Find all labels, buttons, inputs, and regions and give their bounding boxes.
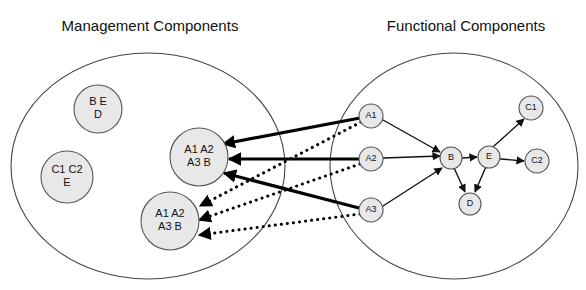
node-label-line: A3 B — [158, 220, 182, 232]
functional-components-title: Functional Components — [387, 17, 545, 34]
node-fn-c1[interactable]: C1 — [519, 96, 543, 120]
edge-e-c2 — [501, 159, 524, 161]
edge-a2-b — [384, 156, 440, 158]
diagram-root: Management Components Functional Compone… — [0, 0, 586, 290]
node-label-line: D — [94, 108, 102, 120]
node-fn-e[interactable]: E — [478, 146, 500, 168]
node-label: A1 — [365, 110, 376, 120]
node-label: B — [448, 152, 454, 162]
edge-a1-b — [383, 120, 440, 152]
node-label-line: E — [63, 176, 70, 188]
node-label-line: A1 A2 — [184, 143, 213, 155]
edge-a3-b — [383, 168, 442, 206]
node-label: C2 — [531, 155, 543, 165]
node-label-line: A3 B — [187, 156, 211, 168]
node-mgmt-a-lower[interactable]: A1 A2A3 B — [141, 192, 199, 250]
edge-e-c1 — [494, 119, 524, 146]
edge-a3-to-mgmt-lower — [199, 214, 360, 235]
node-fn-a1[interactable]: A1 — [359, 104, 383, 128]
edge-a1-to-mgmt-upper — [223, 118, 360, 144]
solid-thick-edges — [223, 118, 360, 208]
node-fn-a3[interactable]: A3 — [359, 198, 383, 222]
node-fn-b[interactable]: B — [440, 147, 462, 169]
node-label: A2 — [365, 153, 376, 163]
component-relationship-diagram: Management Components Functional Compone… — [0, 0, 586, 290]
management-components-title: Management Components — [62, 17, 239, 34]
edge-e-d — [475, 169, 485, 192]
edge-b-e — [463, 157, 477, 158]
node-mgmt-be-d[interactable]: B ED — [74, 85, 122, 133]
node-label: C1 — [525, 102, 537, 112]
node-mgmt-c1c2-e[interactable]: C1 C2E — [41, 151, 93, 203]
node-label-line: C1 C2 — [51, 163, 82, 175]
node-fn-d[interactable]: D — [459, 193, 481, 215]
node-fn-c2[interactable]: C2 — [525, 149, 549, 173]
node-mgmt-a-upper[interactable]: A1 A2A3 B — [170, 128, 228, 186]
node-label: E — [486, 151, 492, 161]
dotted-edges — [199, 122, 361, 235]
node-label-line: B E — [89, 95, 107, 107]
node-label-line: A1 A2 — [155, 207, 184, 219]
management-nodes: B EDC1 C2EA1 A2A3 BA1 A2A3 B — [41, 85, 228, 250]
node-label: A3 — [365, 204, 376, 214]
edge-b-d — [455, 170, 465, 192]
node-fn-a2[interactable]: A2 — [359, 147, 383, 171]
node-label: D — [467, 198, 474, 208]
